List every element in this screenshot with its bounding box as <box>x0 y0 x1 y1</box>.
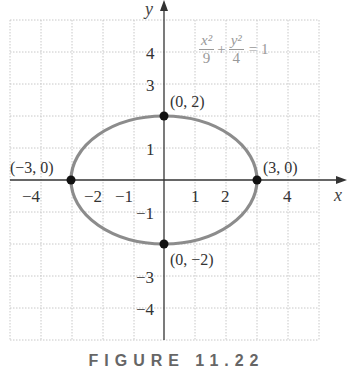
x-axis-label: x <box>334 186 342 204</box>
x-tick-4: 4 <box>283 188 292 205</box>
point-neg3-0 <box>67 176 76 185</box>
y-axis-arrow-icon <box>160 0 168 11</box>
y-tick-neg1: −1 <box>136 205 154 222</box>
eq-x-numerator: x² <box>199 32 214 50</box>
x-axis-arrow-icon <box>336 176 347 184</box>
y-tick-neg3: −3 <box>136 269 154 286</box>
x-tick-1: 1 <box>191 188 200 205</box>
eq-plus: + <box>217 41 225 58</box>
figure-caption: FIGURE 11.22 <box>0 352 353 368</box>
eq-y-numerator: y² <box>229 32 244 50</box>
x-tick-neg2: −2 <box>84 188 102 205</box>
point-label-3-0: (3, 0) <box>263 160 298 176</box>
y-tick-3: 3 <box>146 77 155 94</box>
x-tick-2: 2 <box>221 188 230 205</box>
eq-x-denominator: 9 <box>201 50 213 67</box>
y-tick-1: 1 <box>146 141 155 158</box>
point-label-0-2: (0, 2) <box>170 94 205 110</box>
point-3-0 <box>253 176 262 185</box>
eq-equals: = 1 <box>249 41 269 58</box>
point-label-0-neg2: (0, −2) <box>170 252 214 268</box>
point-label-neg3-0: (−3, 0) <box>10 160 54 176</box>
ellipse-equation: x²9 + y²4 = 1 <box>196 32 269 67</box>
eq-y-denominator: 4 <box>230 50 242 67</box>
point-0-2 <box>160 112 169 121</box>
y-tick-neg4: −4 <box>136 301 154 318</box>
x-tick-neg1: −1 <box>115 188 133 205</box>
y-tick-4: 4 <box>146 45 155 62</box>
chart-canvas <box>0 0 353 368</box>
point-0-neg2 <box>160 240 169 249</box>
y-axis-label: y <box>145 0 153 18</box>
x-tick-neg4: −4 <box>22 188 40 205</box>
